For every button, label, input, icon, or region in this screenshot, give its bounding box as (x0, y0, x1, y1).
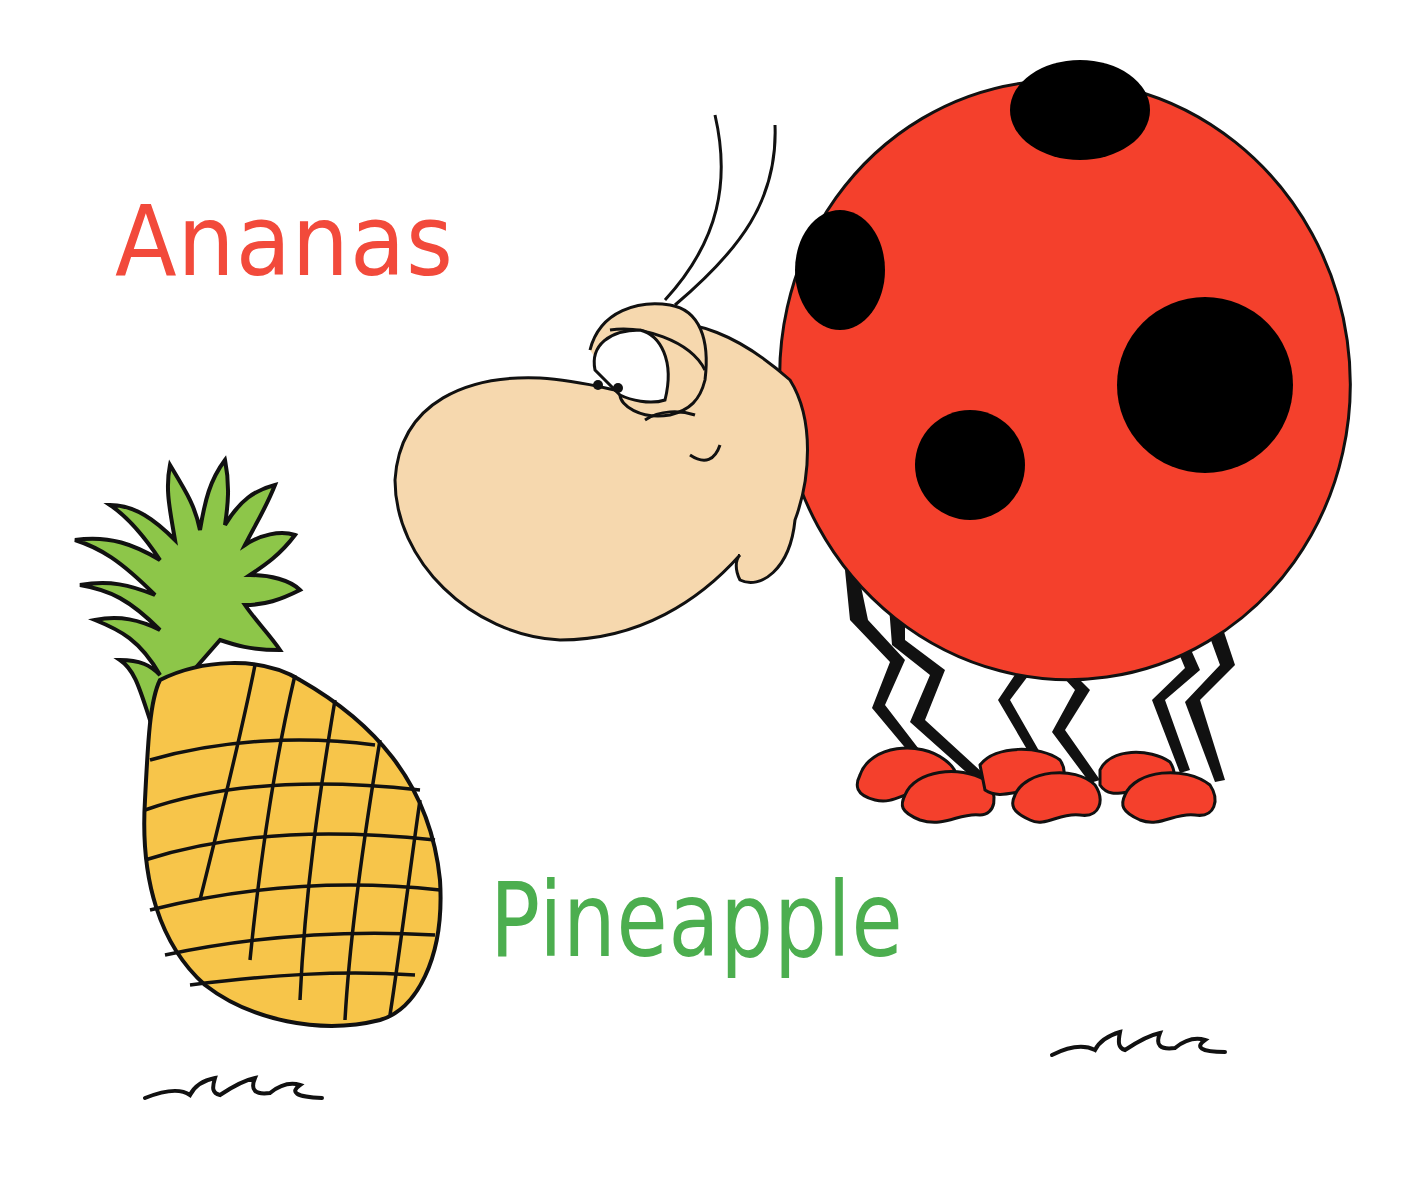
ladybug-illustration (395, 43, 1389, 822)
antenna-icon (665, 115, 775, 305)
grass-tuft-right (1052, 1032, 1225, 1055)
illustration-canvas (0, 0, 1423, 1187)
grass-tuft-left (145, 1078, 322, 1098)
ladybug-feet (857, 748, 1215, 822)
pineapple-illustration (75, 460, 441, 1026)
ladybug-head (395, 304, 808, 640)
